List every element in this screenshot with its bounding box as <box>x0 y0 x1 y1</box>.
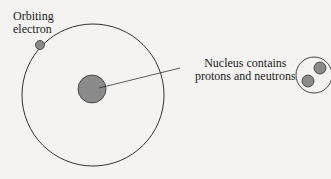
orbiting-electron <box>36 41 45 50</box>
nucleus-detail-circle <box>296 57 331 93</box>
electron-label-line2: electron <box>13 23 54 36</box>
atom-diagram: Orbiting electron Nucleus contains proto… <box>0 0 331 179</box>
nucleus-pointer-line <box>99 68 180 88</box>
neutron <box>302 75 314 87</box>
nucleus-label: Nucleus contains protons and neutrons <box>195 57 296 83</box>
electron-label: Orbiting electron <box>13 10 54 36</box>
nucleus <box>78 75 106 103</box>
proton <box>314 62 326 74</box>
nucleus-label-line2: protons and neutrons <box>195 70 296 83</box>
